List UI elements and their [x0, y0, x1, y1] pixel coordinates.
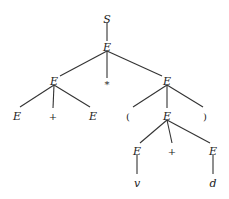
tree-node: +: [49, 111, 57, 122]
tree-node: E: [162, 110, 171, 123]
tree-edge: [167, 120, 210, 143]
tree-edge: [54, 85, 90, 107]
tree-edge: [140, 120, 167, 143]
tree-edge: [167, 85, 203, 107]
tree-node: E: [102, 41, 111, 54]
tree-node: v: [134, 177, 141, 190]
tree-node: d: [209, 177, 216, 190]
tree-node: E: [88, 110, 97, 123]
parse-tree-diagram: SEE*EE+E(E)E+Evd: [0, 0, 229, 199]
tree-node: (: [126, 111, 130, 122]
tree-edge: [60, 51, 107, 76]
tree-edge: [20, 85, 54, 107]
tree-edge: [133, 85, 167, 107]
tree-node: S: [103, 13, 111, 26]
tree-edge: [107, 51, 162, 76]
tree-node: ): [203, 111, 207, 122]
tree-node: +: [168, 146, 176, 157]
tree-node: E: [208, 145, 217, 158]
parse-tree-svg: SEE*EE+E(E)E+Evd: [0, 0, 229, 199]
tree-node: E: [162, 75, 171, 88]
tree-edge: [167, 120, 172, 143]
tree-node: E: [49, 75, 58, 88]
tree-node: *: [105, 79, 110, 90]
tree-node: E: [12, 110, 21, 123]
tree-edge: [53, 85, 54, 108]
tree-node: E: [132, 145, 141, 158]
